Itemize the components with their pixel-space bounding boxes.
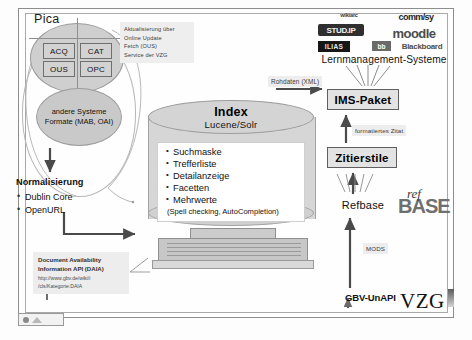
other-systems-line1: andere Systeme [52,107,107,117]
daia-title-line2: Information API (DAIA) [38,265,124,274]
pica-module-acq: ACQ [43,43,75,59]
index-feature-trefferliste: Trefferliste [166,159,298,171]
moodle-logo: moodle [379,26,449,41]
refbase-label: Refbase [328,196,398,214]
normalisierung-list: Dublin Core OpenURL [16,191,112,218]
index-subtitle: Lucene/Solr [205,119,258,130]
pica-module-cat: CAT [80,43,112,59]
rohdaten-label: Rohdaten (XML) [268,76,322,87]
index-feature-mehrwerte: Mehrwerte [166,195,298,207]
daia-url-line2: /cls/Kategorie:DAIA [38,283,124,290]
index-feature-facetten: Facetten [166,183,298,195]
commsy-logo: comm/sy [385,11,447,22]
diagram-canvas: Pica ACQ CAT OUS OPC andere Systeme Form… [0,0,472,340]
update-note-line-2: Online Update [124,34,190,43]
pica-label: Pica [34,12,60,26]
index-feature-note: (Spell checking, AutoCompletion) [166,207,298,217]
update-note-line-3: Fetch (OUS) [124,42,190,51]
index-feature-list: Suchmaske Trefferliste Detailanzeige Fac… [166,147,298,206]
index-pedestal [152,228,314,274]
daia-title-line1: Document Availability [38,256,124,265]
wikiarc-logo: wikiarc [327,10,371,19]
pica-module-ous: OUS [43,61,75,77]
scan-statusbar [18,313,64,326]
normalisierung-item-dublin-core: Dublin Core [25,191,112,205]
ims-paket-box: IMS-Paket [327,89,399,110]
pedestal-foot [152,260,314,269]
blackboard-badge-icon: bb [372,41,391,51]
zitierstile-box: Zitierstile [327,147,397,168]
index-title: Index [214,105,248,119]
index-cylinder-top: Index Lucene/Solr [148,100,314,134]
mods-label: MODS [363,243,388,254]
index-feature-suchmaske: Suchmaske [166,147,298,159]
update-note-line-1: Aktualisierung über [124,25,190,34]
index-cylinder: Index Lucene/Solr Suchmaske Trefferliste… [148,100,314,228]
other-systems-ellipse: andere Systeme Formate (MAB, OAI) [36,88,122,146]
daia-box: Document Availability Information API (D… [33,252,129,294]
update-note: Aktualisierung über Online Update Fetch … [120,22,194,63]
refbase-logo-base: BASE [398,195,450,218]
statusbar-triangle-icon [32,317,42,323]
normalisierung-item-openurl: OpenURL [25,204,112,218]
normalisierung-title: Normalisierung [16,176,112,190]
vzg-logo-bar-icon [448,289,454,307]
blackboard-logo: Blackboard [393,41,451,51]
refbase-logo: BASE ref [398,186,464,214]
gbv-unapi-label: GBV-UnAPI [345,292,396,303]
lms-title: Lernmanagement-Systeme [314,54,454,65]
statusbar-dot-icon [23,317,29,323]
refbase-logo-ref: ref [407,186,421,202]
ilias-logo: ILIAS [318,41,350,52]
daia-url-line1: http://www.gbv.de/wiki/i [38,275,124,282]
other-systems-line2: Formate (MAB, OAI) [45,117,113,127]
pica-module-opc: OPC [80,61,112,77]
studip-logo: STUD.IP [318,24,364,36]
index-feature-panel: Suchmaske Trefferliste Detailanzeige Fac… [157,142,305,222]
index-feature-detailanzeige: Detailanzeige [166,171,298,183]
normalisierung-block: Normalisierung Dublin Core OpenURL [16,176,112,218]
update-note-line-4: Service der VZG [124,51,190,60]
formatiertes-zitat-label: formatiertes Zitat [352,125,406,136]
vzg-logo: VZG [400,289,445,314]
